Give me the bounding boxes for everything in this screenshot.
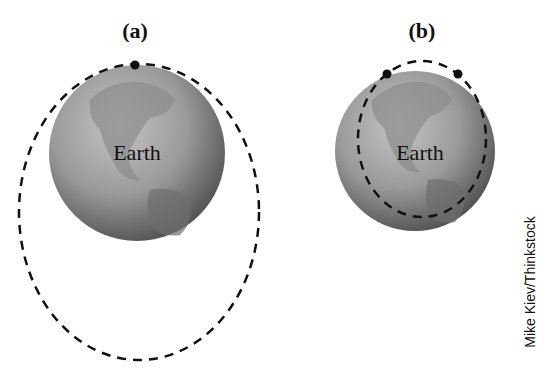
photo-credit: Mike Kiev/Thinkstock [522,216,538,347]
panel-b-label: (b) [409,18,436,43]
panel-a: (a) Earth [19,18,259,360]
earth-label-a: Earth [113,140,161,165]
panel-b: (b) Earth [335,18,495,231]
satellite-dot-icon [454,70,463,79]
panel-a-label: (a) [122,18,148,43]
satellite-dot-icon [383,70,392,79]
earth-label-b: Earth [396,140,444,165]
satellite-dot-icon [131,61,140,70]
orbit-diagram: (a) Earth (b) Earth [0,0,551,377]
